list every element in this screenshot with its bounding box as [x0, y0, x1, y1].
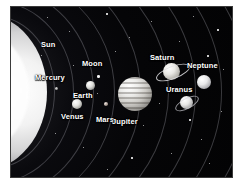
label-saturn: Saturn: [150, 53, 174, 62]
image-frame: Sun Mercury Venus Earth Moon Mars Jupite…: [11, 7, 232, 177]
planet-earth[interactable]: [86, 81, 95, 90]
label-moon: Moon: [82, 59, 102, 68]
planet-neptune[interactable]: [197, 75, 211, 89]
planet-mercury[interactable]: [55, 87, 58, 90]
label-neptune: Neptune: [187, 61, 218, 70]
label-earth: Earth: [73, 91, 93, 100]
planet-moon[interactable]: [97, 75, 100, 78]
label-jupiter: Jupiter: [112, 117, 138, 126]
planet-uranus-group[interactable]: [174, 95, 200, 110]
label-sun: Sun: [41, 40, 55, 49]
label-mercury: Mercury: [35, 73, 65, 82]
label-venus: Venus: [61, 112, 84, 121]
planet-saturn-group[interactable]: [155, 63, 189, 81]
planet-jupiter[interactable]: [118, 77, 152, 111]
label-uranus: Uranus: [166, 85, 192, 94]
planet-mars[interactable]: [104, 102, 108, 106]
solar-system-image: Sun Mercury Venus Earth Moon Mars Jupite…: [0, 0, 242, 185]
planet-venus[interactable]: [72, 99, 82, 109]
